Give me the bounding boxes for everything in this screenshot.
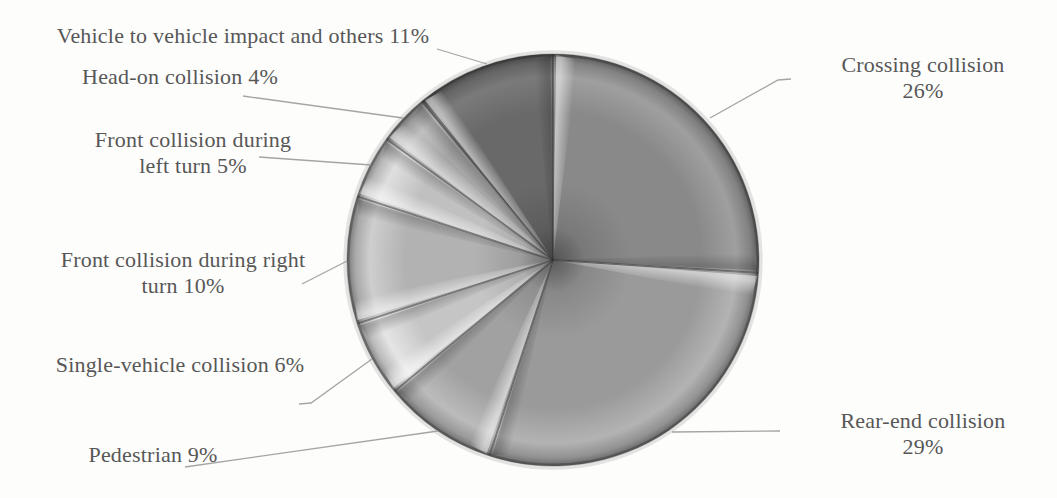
leader-line-single-vehicle-collision: [299, 359, 372, 404]
pie-slice-label-rear-end-collision: Rear-end collision29%: [840, 408, 1005, 460]
leader-line-rear-end-collision: [672, 431, 780, 432]
pie-center-shade: [521, 228, 585, 292]
pie-slice-label-line: 26%: [841, 78, 1004, 104]
pie-slice-label-line: Front collision during: [95, 127, 291, 153]
leader-line-front-collision-during-right-turn: [302, 261, 347, 284]
pie-slice-label-pedestrian: Pedestrian 9%: [88, 442, 217, 468]
pie-slice-label-line: Front collision during right: [61, 247, 306, 273]
leader-line-pedestrian: [185, 431, 438, 467]
pie-slice-label-line: Pedestrian 9%: [88, 442, 217, 468]
leader-line-head-on-collision: [243, 96, 403, 118]
pie-slice-label-line: turn 10%: [61, 273, 306, 299]
pie-slice-label-single-vehicle-collision: Single-vehicle collision 6%: [56, 352, 305, 378]
pie-slice-label-line: Rear-end collision: [840, 408, 1005, 434]
leader-line-crossing-collision: [710, 79, 791, 118]
pie-slice-label-line: Crossing collision: [841, 52, 1004, 78]
pie-slice-label-head-on-collision: Head-on collision 4%: [82, 64, 278, 90]
pie-slice-label-vehicle-to-vehicle-impact-and-others: Vehicle to vehicle impact and others 11%: [57, 23, 430, 49]
pie-slice-label-line: Head-on collision 4%: [82, 64, 278, 90]
pie-slice-label-front-collision-during-right-turn: Front collision during rightturn 10%: [61, 247, 306, 299]
pie-slice-label-line: Single-vehicle collision 6%: [56, 352, 305, 378]
pie-slice-label-crossing-collision: Crossing collision26%: [841, 52, 1004, 104]
pie-slice-crossing-collision: [553, 54, 759, 273]
leader-line-vehicle-to-vehicle-impact-and-others: [437, 49, 487, 64]
pie-slice-label-front-collision-during-left-turn: Front collision duringleft turn 5%: [95, 127, 291, 179]
pie-slice-label-line: left turn 5%: [95, 153, 291, 179]
collision-share-pie-figure: Crossing collision26%Rear-end collision2…: [0, 0, 1057, 498]
pie-slice-label-line: Vehicle to vehicle impact and others 11%: [57, 23, 430, 49]
pie-slice-label-line: 29%: [840, 434, 1005, 460]
